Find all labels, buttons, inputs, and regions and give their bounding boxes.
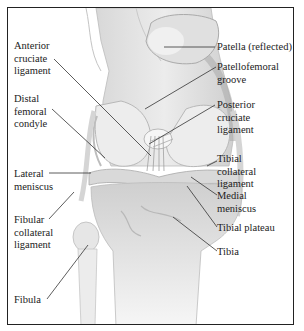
label-fibular-collateral-ligament: Fibular collateral ligament: [14, 214, 53, 252]
label-patellofemoral-groove: Patellofemoral groove: [217, 61, 279, 86]
label-tibia: Tibia: [217, 246, 239, 259]
label-patella-reflected: Patella (reflected): [217, 41, 292, 54]
label-tibial-plateau: Tibial plateau: [217, 222, 275, 235]
label-medial-meniscus: Medial meniscus: [217, 190, 256, 215]
label-lateral-meniscus: Lateral meniscus: [14, 168, 53, 193]
label-fibula: Fibula: [14, 294, 41, 307]
label-posterior-cruciate-ligament: Posterior cruciate ligament: [217, 99, 255, 137]
label-tibial-collateral-ligament: Tibial collateral ligament: [217, 153, 256, 191]
diagram-frame: Anterior cruciate ligament Distal femora…: [7, 7, 294, 325]
patella: [146, 15, 219, 64]
fibula: [73, 222, 99, 325]
label-anterior-cruciate-ligament: Anterior cruciate ligament: [14, 40, 51, 78]
label-distal-femoral-condyle: Distal femoral condyle: [14, 93, 47, 131]
